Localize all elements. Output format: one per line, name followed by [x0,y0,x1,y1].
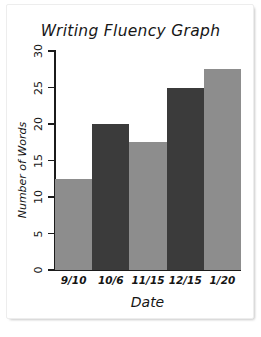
y-tick-mark [48,196,55,198]
x-tick-label: 12/15 [167,274,204,286]
bar [204,69,241,270]
y-tick-label: 0 [31,263,45,277]
chart-screenshot: Writing Fluency Graph 051015202530 9/101… [0,0,261,337]
bar [167,88,204,271]
y-tick-label: 20 [31,117,45,131]
y-tick-label-text: 30 [32,44,45,58]
y-tick-label-text: 10 [32,190,45,204]
x-tick-label: 1/20 [204,274,241,286]
y-tick-mark [48,123,55,125]
y-tick-label: 5 [31,227,45,241]
y-tick-mark [48,233,55,235]
y-axis-label: Number of Words [14,110,30,230]
y-tick-label: 10 [31,190,45,204]
y-tick-mark [48,50,55,52]
y-tick-mark [48,87,55,89]
y-tick-label-text: 5 [32,230,45,237]
chart-title: Writing Fluency Graph [0,22,261,40]
bar [92,124,129,270]
y-tick-label-text: 15 [32,154,45,168]
x-axis-label: Date [54,294,241,310]
y-tick-label-text: 0 [32,267,45,274]
y-tick-mark [48,160,55,162]
bar [129,142,166,270]
x-tick-label: 11/15 [129,274,166,286]
y-tick-label: 15 [31,154,45,168]
y-axis-label-text: Number of Words [16,122,29,219]
y-tick-mark [48,269,55,271]
x-tick-label: 9/10 [55,274,92,286]
bar [55,179,92,270]
y-tick-label: 25 [31,81,45,95]
y-tick-label-text: 25 [32,81,45,95]
y-tick-label: 30 [31,44,45,58]
x-tick-label: 10/6 [92,274,129,286]
y-tick-label-text: 20 [32,117,45,131]
